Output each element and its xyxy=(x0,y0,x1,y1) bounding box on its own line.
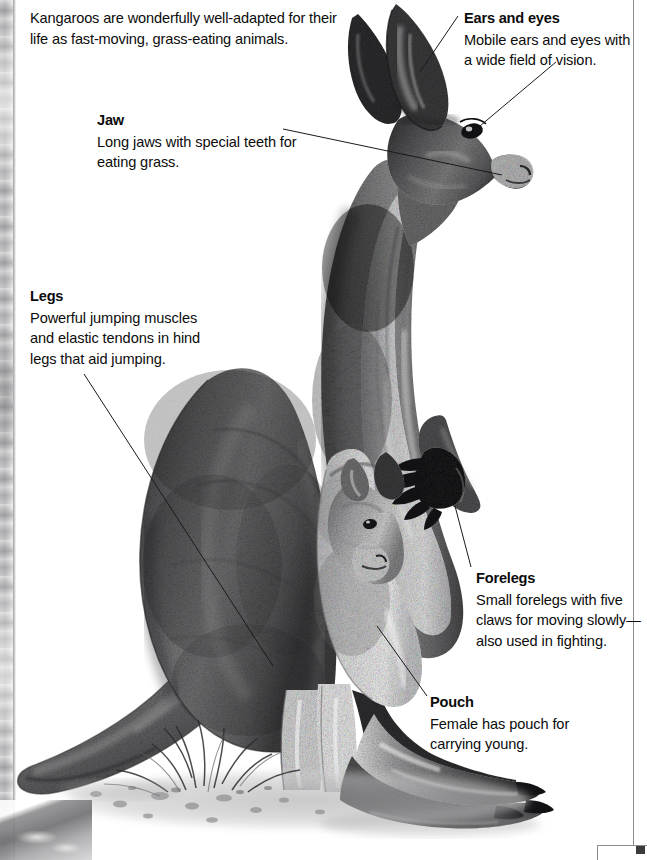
callout-title-pouch: Pouch xyxy=(430,692,610,713)
intro-paragraph: Kangaroos are wonderfully well-adapted f… xyxy=(30,8,350,50)
scan-edge-gutter xyxy=(13,0,16,860)
leader-line-eyes xyxy=(474,62,556,131)
scan-edge-left xyxy=(0,0,13,860)
page-rule-bottom-stub xyxy=(597,845,598,860)
page-corner-mark xyxy=(636,846,645,854)
callout-body-pouch: Female has pouch for carrying young. xyxy=(430,714,610,755)
callout-pouch: Pouch Female has pouch for carrying youn… xyxy=(430,692,610,755)
leader-line-jaw xyxy=(283,129,502,175)
page-rule-right xyxy=(633,0,634,846)
callout-jaw: Jaw Long jaws with special teeth for eat… xyxy=(97,110,312,173)
callout-forelegs: Forelegs Small forelegs with five claws … xyxy=(476,568,641,651)
callout-body-ears-and-eyes: Mobile ears and eyes with a wide field o… xyxy=(464,30,642,71)
callout-body-jaw: Long jaws with special teeth for eating … xyxy=(97,132,312,173)
callout-title-jaw: Jaw xyxy=(97,110,312,131)
scan-edge-bottom-left xyxy=(0,800,92,860)
callout-ears-and-eyes: Ears and eyes Mobile ears and eyes with … xyxy=(464,8,642,71)
leader-line-ears xyxy=(420,16,458,72)
callout-title-ears-and-eyes: Ears and eyes xyxy=(464,8,642,29)
callout-legs: Legs Powerful jumping muscles and elasti… xyxy=(30,286,210,369)
scanned-page: Kangaroos are wonderfully well-adapted f… xyxy=(0,0,647,860)
callout-title-legs: Legs xyxy=(30,286,210,307)
callout-body-forelegs: Small forelegs with five claws for movin… xyxy=(476,590,641,652)
callout-title-forelegs: Forelegs xyxy=(476,568,641,589)
callout-body-legs: Powerful jumping muscles and elastic ten… xyxy=(30,308,210,370)
leader-line-forelegs xyxy=(455,506,471,567)
leader-line-pouch xyxy=(377,626,427,696)
leader-line-legs xyxy=(84,374,273,666)
